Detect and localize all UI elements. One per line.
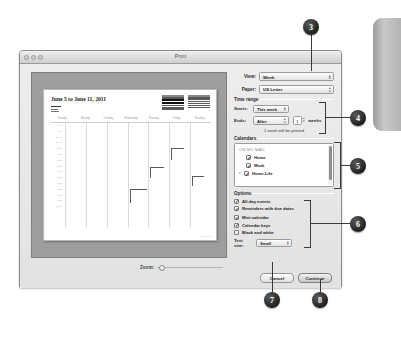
- checkbox-icon[interactable]: [234, 223, 239, 228]
- event-block: [192, 176, 204, 186]
- option-reminders-with-due-dates[interactable]: Reminders with due dates: [234, 206, 334, 211]
- day-name: Saturday: [188, 117, 211, 122]
- mini-calendar-next: [188, 95, 210, 110]
- preview-page-title: June 5 to June 11, 2011: [51, 96, 106, 102]
- ends-select-value: After: [257, 119, 267, 124]
- hour-label: 10 AM: [51, 136, 64, 138]
- view-row: View: Week ▴▾: [234, 72, 334, 81]
- calendars-list[interactable]: ON MY MAC Home Work ▾ Home-Life: [234, 143, 334, 187]
- mini-calendars: [162, 95, 210, 110]
- calendars-heading: Calendars: [234, 136, 334, 141]
- print-dialog-window: Print June 5 to June 11, 2011: [19, 50, 342, 288]
- zoom-slider[interactable]: [157, 264, 223, 271]
- checkbox-icon[interactable]: [234, 199, 239, 204]
- paper-select[interactable]: US Letter ▴▾: [259, 85, 334, 94]
- option-label: Reminders with due dates: [242, 206, 294, 211]
- list-item[interactable]: ▾ Home-Life: [239, 171, 333, 176]
- mini-calendar-current: [162, 95, 184, 110]
- weeks-input[interactable]: 1: [293, 116, 302, 125]
- window-body: June 5 to June 11, 2011: [20, 64, 341, 288]
- day-column: [86, 123, 107, 228]
- group-divider: [258, 138, 334, 139]
- option-label: Mini calendar: [242, 215, 269, 220]
- hour-label: 4 PM: [51, 170, 64, 172]
- window-title: Print: [20, 53, 341, 59]
- zoom-label: Zoom:: [140, 265, 154, 270]
- calendars-scrollbar[interactable]: [328, 145, 332, 185]
- hour-label: 8 AM: [51, 124, 64, 126]
- hour-label: 3 PM: [51, 165, 64, 167]
- day-name: Sunday: [51, 117, 74, 122]
- zoom-control[interactable]: Zoom:: [140, 264, 223, 271]
- day-column: [128, 123, 149, 228]
- day-column: [190, 123, 211, 228]
- text-size-value: Small: [260, 241, 271, 246]
- continue-button[interactable]: Continue: [298, 273, 332, 283]
- hour-label: 9 PM: [51, 199, 64, 201]
- weeks-stepper[interactable]: 1 ▴▾: [293, 116, 305, 125]
- event-block: [150, 167, 164, 178]
- ends-select[interactable]: After ▴▾: [253, 116, 289, 125]
- calendar-key-legend: [51, 106, 61, 113]
- list-item[interactable]: Home: [239, 155, 333, 160]
- option-black-and-white[interactable]: Black and white: [234, 230, 334, 235]
- checkbox-icon[interactable]: [244, 171, 249, 176]
- day-column: [148, 123, 169, 228]
- callout-6: 6: [350, 216, 366, 232]
- callout-leader-3: [311, 35, 312, 71]
- day-column: [107, 123, 128, 228]
- option-all-day-events[interactable]: All-day events: [234, 199, 334, 204]
- day-name: Friday: [165, 117, 188, 122]
- checkbox-icon[interactable]: [234, 230, 239, 235]
- chevron-updown-icon: ▴▾: [284, 118, 286, 123]
- stepper-arrows-icon[interactable]: ▴▾: [303, 117, 305, 124]
- checkbox-icon[interactable]: [234, 206, 239, 211]
- checkbox-icon[interactable]: [246, 155, 251, 160]
- options-heading-label: Options: [234, 191, 251, 196]
- group-divider: [260, 99, 334, 100]
- window-titlebar[interactable]: Print: [20, 51, 341, 64]
- starts-select-value: This week: [257, 107, 277, 112]
- callout-leader-6: [311, 223, 352, 224]
- time-range-heading-label: Time range: [234, 97, 258, 102]
- list-item[interactable]: Work: [239, 163, 333, 168]
- zoom-slider-knob[interactable]: [159, 265, 165, 271]
- hour-label: 9 AM: [51, 130, 64, 132]
- hour-label: 11 AM: [51, 141, 64, 143]
- scrollbar-thumb[interactable]: [329, 146, 332, 180]
- calendars-group-header: ON MY MAC: [239, 147, 333, 152]
- callout-brace-4: [319, 102, 326, 134]
- calendars-heading-label: Calendars: [234, 136, 256, 141]
- day-column: [65, 123, 86, 228]
- option-label: All-day events: [242, 199, 270, 204]
- callout-8: 8: [312, 292, 328, 308]
- view-select[interactable]: Week ▴▾: [259, 72, 334, 81]
- text-size-row: Text size: Small ▴▾: [234, 238, 334, 248]
- options-heading: Options: [234, 191, 334, 196]
- text-size-label: Text size:: [234, 238, 253, 248]
- hour-label: 10 PM: [51, 205, 64, 207]
- starts-select[interactable]: This week ▴▾: [253, 105, 289, 114]
- checkbox-icon[interactable]: [234, 215, 239, 220]
- hour-label: 1 PM: [51, 153, 64, 155]
- option-mini-calendar[interactable]: Mini calendar: [234, 215, 334, 220]
- callout-4: 4: [350, 110, 366, 126]
- dialog-buttons: Cancel Continue: [260, 273, 332, 283]
- callout-3: 3: [303, 19, 319, 35]
- checkbox-icon[interactable]: [246, 163, 251, 168]
- zoom-slider-track: [157, 267, 223, 268]
- callout-brace-5: [334, 142, 341, 189]
- print-preview-pane: June 5 to June 11, 2011: [31, 72, 227, 258]
- chevron-updown-icon: ▴▾: [287, 241, 289, 246]
- event-block: [130, 189, 147, 203]
- day-name: Monday: [74, 117, 97, 122]
- hour-axis: 8 AM 9 AM 10 AM 11 AM Noon 1 PM 2 PM 3 P…: [51, 124, 64, 228]
- cancel-button[interactable]: Cancel: [260, 273, 294, 283]
- day-columns: [65, 123, 211, 228]
- starts-label: Starts:: [234, 106, 250, 111]
- day-name: Thursday: [142, 117, 165, 122]
- day-name: Wednesday: [120, 117, 143, 122]
- text-size-select[interactable]: Small ▴▾: [256, 239, 292, 248]
- option-label: Calendar keys: [242, 223, 270, 228]
- hour-label: Noon: [51, 147, 64, 149]
